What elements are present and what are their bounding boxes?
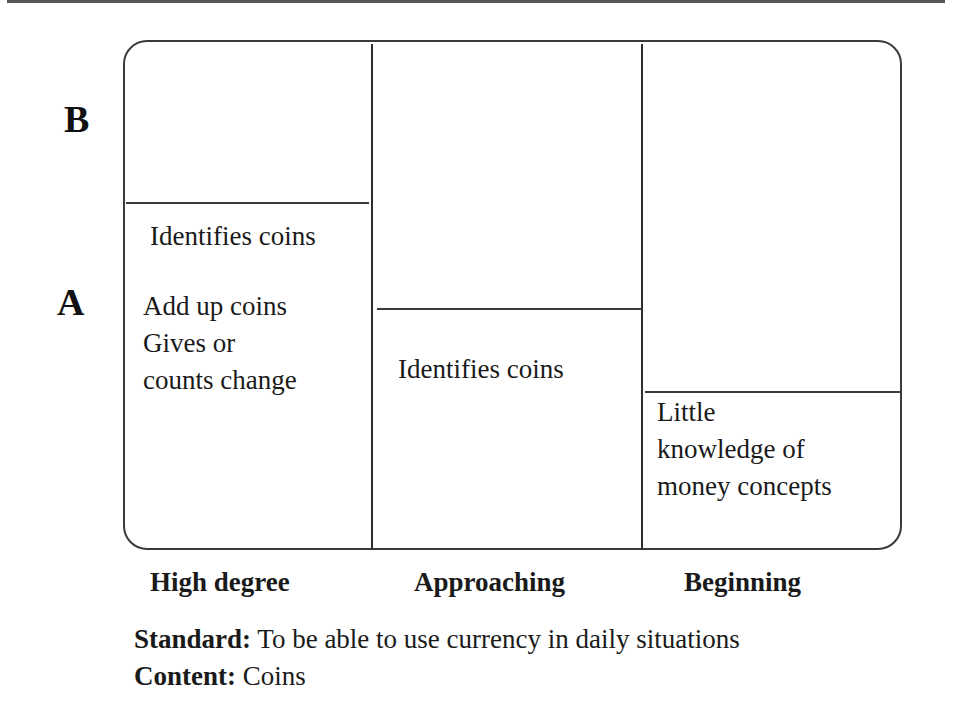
level-line-high-degree [126, 202, 369, 204]
content-text: Coins [236, 661, 306, 691]
column-label-high-degree: High degree [150, 564, 290, 600]
level-line-beginning [645, 391, 900, 393]
standard-label: Standard: [134, 624, 251, 654]
standard-text: To be able to use currency in daily situ… [251, 624, 740, 654]
column-divider-1 [371, 44, 373, 550]
level-line-approaching [377, 308, 641, 310]
axis-label-a: A [57, 283, 84, 321]
cell-text: Gives or [143, 325, 235, 362]
standard-line: Standard: To be able to use currency in … [134, 621, 740, 658]
cell-text: knowledge of [657, 431, 805, 468]
top-rule [7, 0, 945, 3]
column-label-beginning: Beginning [684, 564, 801, 600]
axis-label-b: B [64, 100, 89, 138]
cell-text: Identifies coins [150, 218, 316, 255]
content-label: Content: [134, 661, 236, 691]
content-line: Content: Coins [134, 658, 306, 695]
cell-text: Little [657, 394, 715, 431]
cell-text: Add up coins [143, 288, 287, 325]
cell-text: money concepts [657, 468, 832, 505]
column-label-approaching: Approaching [414, 564, 565, 600]
cell-text: counts change [143, 362, 297, 399]
cell-text: Identifies coins [398, 351, 564, 388]
column-divider-2 [641, 44, 643, 550]
